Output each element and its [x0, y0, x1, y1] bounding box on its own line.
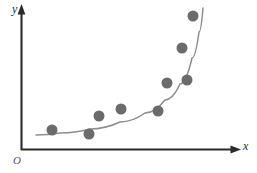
x-axis — [21, 146, 241, 154]
data-point — [84, 129, 95, 140]
y-axis-label: y — [12, 3, 17, 15]
fit-curve — [36, 8, 203, 135]
data-point — [162, 78, 173, 89]
data-point — [116, 104, 127, 115]
data-point — [153, 106, 164, 117]
y-axis — [18, 4, 26, 150]
data-point — [188, 11, 199, 22]
data-point — [47, 125, 58, 136]
data-point — [177, 43, 188, 54]
origin-label: O — [13, 155, 21, 166]
plot-canvas — [0, 0, 257, 173]
data-points — [47, 11, 199, 140]
scatter-plot-figure: y x O — [0, 0, 257, 173]
data-point — [182, 75, 193, 86]
data-point — [94, 111, 105, 122]
x-axis-label: x — [243, 140, 248, 152]
